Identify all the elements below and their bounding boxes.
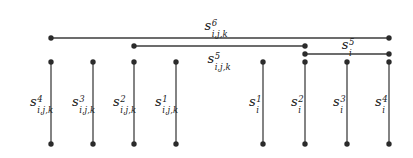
stem-s1-ijk-endpoint-top bbox=[173, 59, 178, 64]
stem-s3-i-endpoint-bottom bbox=[344, 141, 349, 146]
label-base: s bbox=[204, 18, 211, 33]
label-superscript: 3 bbox=[79, 95, 95, 104]
interval-s5-i-endpoint-right bbox=[386, 51, 391, 56]
label-superscript: 5 bbox=[349, 38, 354, 47]
label-base: s bbox=[291, 94, 298, 109]
label-subscript: i bbox=[298, 106, 303, 115]
stem-s2-i-endpoint-top bbox=[302, 59, 307, 64]
stem-s2-i-endpoint-bottom bbox=[302, 141, 307, 146]
stem-s4-ijk-endpoint-top bbox=[48, 59, 53, 64]
stem-s3-ijk-label: s3i,j,k bbox=[72, 93, 95, 116]
stem-s4-ijk-endpoint-bottom bbox=[48, 141, 53, 146]
label-subscript: i,j,k bbox=[120, 106, 136, 115]
label-subscript: i,j,k bbox=[37, 106, 53, 115]
label-superscript: 1 bbox=[256, 95, 261, 104]
label-superscript: 5 bbox=[215, 52, 231, 61]
stem-s2-ijk-label: s2i,j,k bbox=[113, 93, 136, 116]
stem-s4-ijk-label: s4i,j,k bbox=[30, 93, 53, 116]
stem-s1-ijk-endpoint-bottom bbox=[173, 141, 178, 146]
interval-s5-i-endpoint-left bbox=[302, 51, 307, 56]
interval-s5-ijk-endpoint-right bbox=[302, 43, 307, 48]
label-base: s bbox=[342, 37, 349, 52]
label-base: s bbox=[155, 94, 162, 109]
interval-s5-i-label: s5i bbox=[342, 36, 355, 59]
stem-s4-i-endpoint-bottom bbox=[386, 141, 391, 146]
stem-s1-i-endpoint-top bbox=[260, 59, 265, 64]
stem-s1-i-label: s1i bbox=[249, 93, 262, 116]
label-subscript: i bbox=[256, 106, 261, 115]
label-subscript: i bbox=[382, 106, 387, 115]
stem-s2-ijk-endpoint-bottom bbox=[131, 141, 136, 146]
interval-s5-ijk-label: s5i,j,k bbox=[207, 50, 230, 73]
interval-s6-ijk-endpoint-left bbox=[48, 35, 53, 40]
interval-s6-ijk-endpoint-right bbox=[386, 35, 391, 40]
label-subscript: i,j,k bbox=[212, 30, 228, 39]
stem-s2-ijk-endpoint-top bbox=[131, 59, 136, 64]
label-superscript: 6 bbox=[212, 19, 228, 28]
label-superscript: 2 bbox=[120, 95, 136, 104]
label-subscript: i bbox=[340, 106, 345, 115]
label-base: s bbox=[207, 51, 214, 66]
stem-s1-ijk-label: s1i,j,k bbox=[155, 93, 178, 116]
stem-s3-ijk-endpoint-top bbox=[90, 59, 95, 64]
label-base: s bbox=[72, 94, 79, 109]
schedule-interval-diagram: s6i,j,ks5i,j,ks5is4i,j,ks3i,j,ks2i,j,ks1… bbox=[0, 0, 413, 158]
stem-s1-i-endpoint-bottom bbox=[260, 141, 265, 146]
stem-s2-i-label: s2i bbox=[291, 93, 304, 116]
interval-s5-ijk-endpoint-left bbox=[131, 43, 136, 48]
label-base: s bbox=[113, 94, 120, 109]
label-superscript: 4 bbox=[382, 95, 387, 104]
stem-s3-i-endpoint-top bbox=[344, 59, 349, 64]
stem-s4-i-endpoint-top bbox=[386, 59, 391, 64]
label-subscript: i,j,k bbox=[79, 106, 95, 115]
label-superscript: 1 bbox=[162, 95, 178, 104]
interval-s6-ijk-label: s6i,j,k bbox=[204, 17, 227, 40]
label-subscript: i,j,k bbox=[162, 106, 178, 115]
label-base: s bbox=[333, 94, 340, 109]
label-base: s bbox=[249, 94, 256, 109]
label-superscript: 4 bbox=[37, 95, 53, 104]
stem-s4-i-label: s4i bbox=[375, 93, 388, 116]
label-subscript: i,j,k bbox=[215, 63, 231, 72]
label-superscript: 2 bbox=[298, 95, 303, 104]
label-base: s bbox=[30, 94, 37, 109]
label-superscript: 3 bbox=[340, 95, 345, 104]
label-subscript: i bbox=[349, 49, 354, 58]
stem-s3-i-label: s3i bbox=[333, 93, 346, 116]
label-base: s bbox=[375, 94, 382, 109]
stem-s3-ijk-endpoint-bottom bbox=[90, 141, 95, 146]
